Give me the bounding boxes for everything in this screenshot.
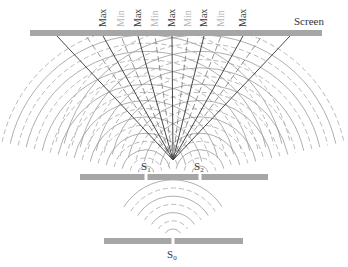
source-slit-barrier (104, 238, 243, 244)
wavefront-arc (58, 84, 234, 154)
wavefront-arc (152, 213, 195, 225)
wavefront-arc (72, 43, 328, 145)
screen-label: Screen (294, 15, 324, 27)
slit-s1-label: S1 (141, 160, 151, 174)
wavefront-arc (124, 180, 222, 207)
fringe-label-max: Max (133, 9, 143, 27)
wavefront-arc (112, 84, 288, 154)
barrier-segment (175, 238, 244, 244)
wavefront-arc (159, 221, 188, 229)
barrier-segment (148, 174, 199, 180)
fringe-label-min: Min (183, 10, 193, 27)
barrier-segment (104, 238, 172, 244)
fringe-label-max: Max (98, 9, 108, 27)
s2-subscript: 2 (200, 166, 204, 174)
maximum-line (103, 36, 173, 160)
s1-subscript: 1 (147, 166, 151, 174)
fringe-label-min: Min (216, 10, 226, 27)
double-slit-diagram (0, 0, 348, 267)
slit-s2-label: S2 (194, 160, 204, 174)
fringe-label-max: Max (199, 9, 209, 27)
wavefront-arc (145, 204, 202, 220)
s0-subscript: 0 (173, 254, 177, 262)
fringe-label-min: Min (150, 10, 160, 27)
wavefront-arc (165, 229, 180, 233)
fringe-label-max: Max (167, 9, 177, 27)
barrier-segment (80, 174, 145, 180)
wavefront-arc (131, 188, 215, 211)
wavefront-arc (96, 68, 304, 151)
fringe-label-min: Min (116, 10, 126, 27)
slit-s0-label: S0 (167, 248, 177, 262)
screen-bar (30, 30, 322, 36)
double-slit-barrier (80, 174, 268, 180)
source-wavefronts (124, 180, 222, 233)
maximum-line (173, 36, 243, 160)
wavefront-arc (42, 68, 250, 151)
barrier-segment (202, 174, 269, 180)
fringe-label-max: Max (238, 9, 248, 27)
